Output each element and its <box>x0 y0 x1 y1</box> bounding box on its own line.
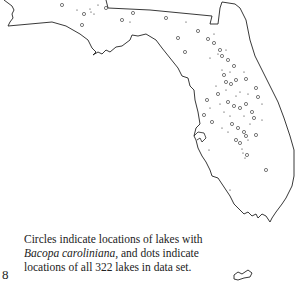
map-caption: Circles indicate locations of lakes with… <box>24 232 214 275</box>
caption-text-1: Circles indicate locations of lakes with <box>24 233 203 245</box>
caption-species: Bacopa caroliniana, <box>24 247 118 259</box>
lake-circles <box>60 3 267 171</box>
keys-island <box>234 270 252 280</box>
lake-dots <box>76 4 262 190</box>
page-number: 8 <box>2 267 9 283</box>
